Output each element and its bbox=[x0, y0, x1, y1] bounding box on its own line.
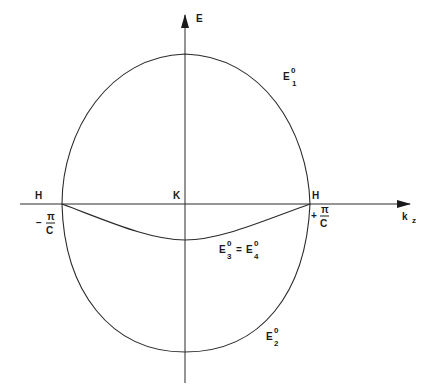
band-e4-base: E bbox=[246, 244, 253, 255]
band-e34-curve bbox=[62, 204, 310, 240]
left-boundary-label: − π C bbox=[36, 211, 55, 236]
right-boundary-label: + π C bbox=[311, 204, 329, 229]
band-e4-sup: 0 bbox=[254, 239, 259, 248]
band-e34-label: E 0 3 = E 0 4 bbox=[219, 239, 259, 261]
band-e1-sup: 0 bbox=[291, 66, 296, 75]
energy-axis-label: E bbox=[196, 13, 203, 24]
right-boundary-numerator: π bbox=[321, 204, 329, 215]
band-e3-base: E bbox=[219, 244, 226, 255]
band-e2-base: E bbox=[266, 331, 273, 342]
left-boundary-denominator: C bbox=[46, 225, 53, 236]
kz-axis-label: k bbox=[402, 211, 408, 222]
band-diagram: E k z K H H − π C + π C E 0 1 E 0 3 = E … bbox=[0, 0, 433, 389]
band-e2-sub: 2 bbox=[274, 339, 279, 348]
point-h-left-label: H bbox=[35, 190, 42, 201]
band-e2-sup: 0 bbox=[274, 326, 279, 335]
right-boundary-sign: + bbox=[311, 210, 317, 221]
band-e1-label: E 0 1 bbox=[283, 66, 297, 88]
point-h-right-label: H bbox=[312, 190, 319, 201]
left-boundary-numerator: π bbox=[47, 211, 55, 222]
band-equals-sign: = bbox=[236, 244, 242, 255]
point-k-label: K bbox=[173, 190, 181, 201]
band-e1-base: E bbox=[283, 71, 290, 82]
band-e2-curve bbox=[62, 204, 310, 352]
band-e3-sup: 0 bbox=[227, 239, 232, 248]
right-boundary-denominator: C bbox=[320, 218, 327, 229]
band-e1-curve bbox=[62, 54, 310, 204]
band-e2-label: E 0 2 bbox=[266, 326, 279, 348]
left-boundary-sign: − bbox=[36, 217, 42, 228]
band-e1-sub: 1 bbox=[292, 79, 297, 88]
band-e3-sub: 3 bbox=[227, 252, 232, 261]
band-e4-sub: 4 bbox=[254, 252, 259, 261]
kz-axis-subscript: z bbox=[412, 216, 416, 225]
